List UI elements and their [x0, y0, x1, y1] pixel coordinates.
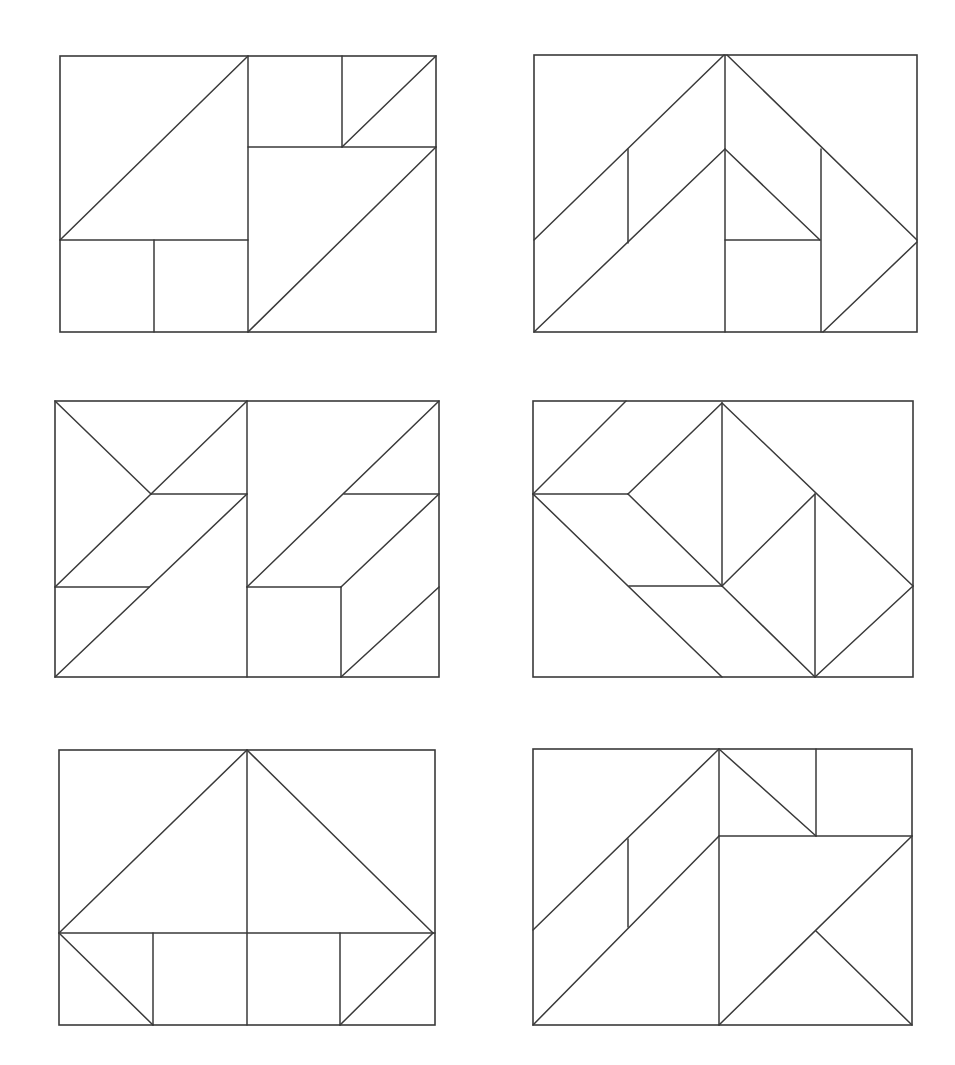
piece-edge — [533, 836, 719, 1025]
piece-edge — [60, 56, 248, 240]
puzzle-panel-3 — [55, 401, 439, 677]
piece-edge — [727, 55, 917, 240]
piece-edge — [342, 56, 436, 147]
puzzle-panel-2 — [534, 55, 917, 332]
piece-edge — [55, 401, 151, 494]
puzzle-panel-1 — [60, 56, 436, 332]
piece-edge — [628, 403, 722, 494]
piece-edge — [59, 750, 247, 933]
puzzle-panel-4 — [533, 401, 913, 677]
piece-edge — [341, 587, 439, 677]
piece-edge — [533, 401, 626, 494]
panel-frame — [533, 749, 912, 1025]
piece-edge — [725, 149, 820, 240]
piece-edge — [59, 933, 153, 1025]
piece-edge — [151, 401, 247, 494]
piece-edge — [719, 749, 816, 836]
piece-edge — [628, 494, 722, 586]
piece-edge — [341, 494, 439, 587]
piece-edge — [722, 494, 815, 586]
piece-edge — [247, 750, 433, 933]
piece-edge — [248, 147, 436, 332]
piece-edge — [533, 749, 719, 930]
piece-edge — [55, 494, 151, 587]
puzzle-panel-5 — [59, 750, 435, 1025]
panel-frame — [533, 401, 913, 677]
tangram-diagram — [0, 0, 955, 1065]
puzzle-panel-6 — [533, 749, 912, 1025]
piece-edge — [816, 931, 912, 1025]
piece-edge — [534, 149, 725, 332]
piece-edge — [534, 55, 724, 240]
piece-edge — [815, 586, 913, 677]
piece-edge — [722, 586, 815, 677]
piece-edge — [823, 242, 917, 332]
piece-edge — [340, 933, 433, 1025]
piece-edge — [55, 494, 247, 677]
